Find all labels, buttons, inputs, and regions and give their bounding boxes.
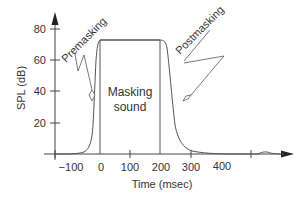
postmasking-pointer <box>184 56 224 95</box>
y-axis-arrow-icon <box>52 12 59 25</box>
y-tick-20: 20 <box>34 117 46 129</box>
y-axis <box>50 20 60 160</box>
y-tick-60: 60 <box>34 54 46 66</box>
x-tick-0: 0 <box>98 161 104 173</box>
x-tick-100: 100 <box>121 161 139 173</box>
postmasking-label: Postmasking <box>173 3 226 56</box>
y-tick-80: 80 <box>34 23 46 35</box>
masking-chart: 80 60 40 20 −100 0 100 200 300 400 SPL (… <box>0 0 307 198</box>
x-tick-400: 400 <box>213 160 231 172</box>
x-tick-300: 300 <box>182 161 200 173</box>
masking-threshold-curve <box>55 40 284 154</box>
y-axis-title: SPL (dB) <box>15 66 27 110</box>
x-tick-200: 200 <box>152 161 170 173</box>
y-tick-40: 40 <box>34 85 46 97</box>
masking-label-line1: Masking <box>108 85 153 99</box>
x-axis-title: Time (msec) <box>132 178 193 190</box>
masking-label-line2: sound <box>114 100 147 114</box>
postmasking-pointer-head-icon <box>183 95 191 101</box>
premasking-pointer <box>75 54 92 90</box>
x-tick-minus100: −100 <box>59 161 84 173</box>
